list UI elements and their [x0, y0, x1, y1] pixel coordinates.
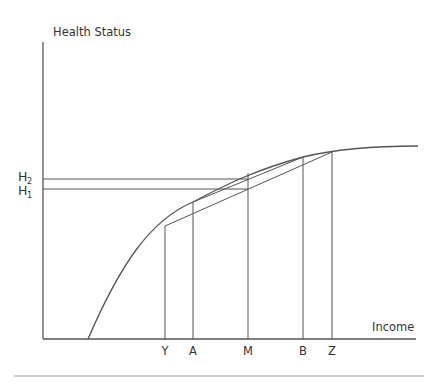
x-tick-z: Z: [328, 344, 336, 358]
svg-text:H: H: [18, 169, 27, 184]
svg-text:H: H: [18, 183, 27, 198]
x-tick-m: M: [243, 344, 253, 358]
x-tick-b: B: [299, 344, 307, 358]
x-tick-y: Y: [160, 344, 169, 358]
y-axis-label: Health Status: [53, 25, 131, 39]
svg-text:1: 1: [27, 191, 32, 200]
svg-text:2: 2: [27, 177, 32, 186]
health-income-diagram: Health Status H 2 H 1 Y A M B Z Income: [0, 0, 433, 384]
health-income-curve: [88, 146, 418, 339]
x-axis-label: Income: [372, 320, 414, 334]
x-tick-a: A: [189, 344, 197, 358]
